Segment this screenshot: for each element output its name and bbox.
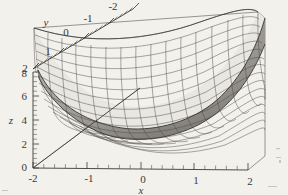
y-tick-label-2: 2 (22, 62, 28, 74)
y-tick-label-0: 0 (63, 26, 69, 38)
y-axis-label: y (43, 16, 49, 28)
z-tick-label-0: 0 (22, 161, 28, 173)
z-axis-label: z (8, 114, 14, 126)
surface-plot-figure: 0 2 4 6 8 z (0, 0, 288, 195)
y-tick-label-neg2: -2 (108, 0, 117, 12)
y-tick-label-neg1: -1 (83, 12, 92, 24)
figure-background (0, 0, 288, 195)
x-tick-label-neg1: -1 (84, 172, 93, 184)
z-tick-label-6: 6 (22, 90, 28, 102)
x-tick-label-1: 1 (193, 174, 199, 186)
x-tick-label-neg2: -2 (28, 172, 37, 184)
x-tick-label-2: 2 (247, 175, 253, 187)
y-tick-label-1: 1 (45, 45, 51, 57)
z-tick-label-4: 4 (22, 114, 28, 126)
x-axis-label: x (138, 184, 144, 195)
z-tick-label-2: 2 (22, 138, 28, 150)
